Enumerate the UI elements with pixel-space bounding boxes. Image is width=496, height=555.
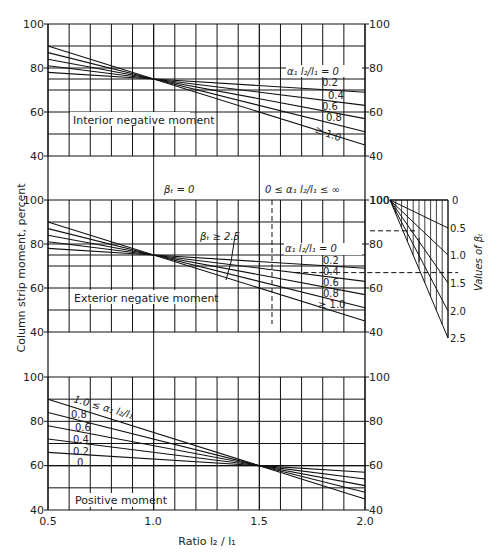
svg-text:0.8: 0.8 [71,409,87,420]
svg-text:0.6: 0.6 [323,277,339,288]
beta-scale-title: Values of βₜ [473,233,484,291]
svg-text:80: 80 [369,62,383,75]
svg-text:0.8: 0.8 [326,112,342,123]
svg-text:0.8: 0.8 [323,288,339,299]
svg-text:1.0: 1.0 [450,250,466,261]
svg-text:60: 60 [30,106,44,119]
curve-0.4 [48,439,365,479]
svg-text:40: 40 [30,150,44,163]
svg-text:100: 100 [23,18,44,31]
beta-zero-label: βₜ = 0 [163,184,194,195]
svg-text:60: 60 [30,459,44,472]
svg-text:100: 100 [369,371,390,384]
panel-title-interior: Interior negative moment [73,114,215,127]
svg-text:0.2: 0.2 [322,77,338,88]
beta-ge-label: βₜ ≥ 2.5 [199,231,240,242]
svg-text:60: 60 [369,282,383,295]
grid-lines [44,24,369,510]
svg-text:0: 0 [77,457,83,468]
x-axis-label: Ratio l₂ / l₁ [178,535,235,548]
y-axis-label: Column strip moment, percent [15,183,28,353]
svg-text:80: 80 [369,415,383,428]
curve-0.8 [48,412,365,492]
svg-text:1.0: 1.0 [144,515,162,528]
svg-text:0.4: 0.4 [323,266,339,277]
svg-text:≥ 1.0: ≥ 1.0 [313,124,343,144]
svg-text:40: 40 [369,150,383,163]
svg-text:40: 40 [369,326,383,339]
column-strip-moment-chart: 100 80 60 40 100 80 60 40 100 80 60 40 1… [0,0,496,555]
svg-text:80: 80 [30,415,44,428]
svg-text:60: 60 [30,282,44,295]
panel-title-exterior: Exterior negative moment [74,292,219,305]
svg-text:2.5: 2.5 [450,333,466,344]
x-ticks: 0.5 1.0 1.5 2.0 [39,515,374,528]
svg-text:2.0: 2.0 [450,306,466,317]
svg-text:1.5: 1.5 [250,515,268,528]
svg-text:0.5: 0.5 [39,515,57,528]
panel-title-positive: Positive moment [75,494,168,507]
svg-text:0.4: 0.4 [73,434,89,445]
svg-text:100: 100 [369,18,390,31]
svg-text:100: 100 [370,195,389,206]
curve-1.01l2l1 [48,399,365,499]
svg-text:0.6: 0.6 [75,422,91,433]
svg-text:0.2: 0.2 [73,446,89,457]
svg-text:40: 40 [30,326,44,339]
beta-interpolation-scale [390,200,448,338]
svg-text:80: 80 [30,238,44,251]
svg-text:2.0: 2.0 [356,515,374,528]
svg-text:1.5: 1.5 [450,278,466,289]
svg-text:100: 100 [23,371,44,384]
svg-text:0.4: 0.4 [328,90,344,101]
legend-header-panel-1: α₁ l₂/l₁ = 0 [287,66,339,77]
svg-text:0.5: 0.5 [450,223,466,234]
alpha-range-label: 0 ≤ α₁ l₂/l₁ ≤ ∞ [265,184,340,195]
legend-header-panel-2: α₁ l₂/l₁ = 0 [285,243,337,254]
svg-text:60: 60 [369,106,383,119]
svg-text:80: 80 [369,238,383,251]
svg-text:0.6: 0.6 [322,101,338,112]
svg-text:80: 80 [30,62,44,75]
svg-text:60: 60 [369,459,383,472]
svg-text:≥ 1.0: ≥ 1.0 [318,299,345,310]
svg-text:0.2: 0.2 [323,255,339,266]
svg-text:0: 0 [452,195,458,206]
